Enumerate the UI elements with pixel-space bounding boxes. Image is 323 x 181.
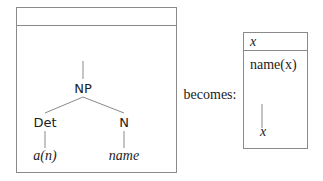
right-drs-header: x bbox=[250, 34, 256, 50]
tree-leaf-n: name bbox=[109, 149, 139, 163]
left-drs-divider bbox=[17, 25, 176, 26]
tree-node-n: N bbox=[119, 116, 129, 129]
right-drs-condition: name(x) bbox=[250, 57, 297, 73]
right-drs-leaf: x bbox=[260, 125, 266, 139]
becomes-label: becomes: bbox=[184, 88, 237, 102]
tree-node-det: Det bbox=[33, 116, 56, 129]
tree-node-np: NP bbox=[74, 82, 92, 95]
right-drs-box: x name(x) bbox=[243, 32, 308, 149]
tree-leaf-det: a(n) bbox=[33, 149, 56, 163]
right-drs-divider bbox=[244, 50, 307, 51]
